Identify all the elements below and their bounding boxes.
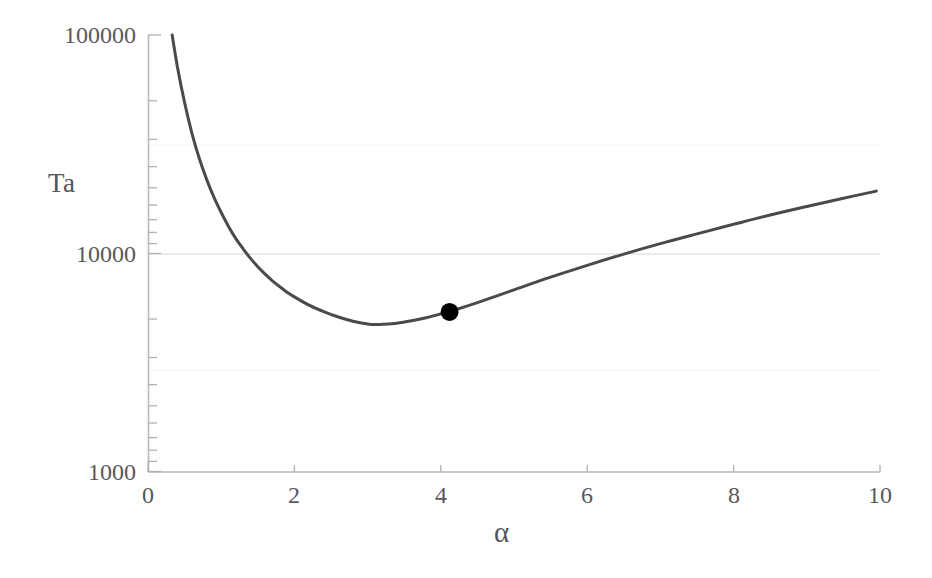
chart-figure: 100000 10000 1000 0 2 4 6 8 10 Ta α	[0, 0, 932, 578]
xtick-label-4: 4	[411, 482, 471, 509]
y-axis-ticks	[148, 35, 161, 472]
series-experimental-point	[441, 303, 459, 321]
x-axis-ticks	[148, 462, 880, 472]
series-critical-taylor-curve	[172, 35, 876, 325]
gridlines	[148, 145, 880, 370]
xtick-label-0: 0	[118, 482, 178, 509]
xtick-label-10: 10	[850, 482, 910, 509]
xtick-label-2: 2	[264, 482, 324, 509]
y-axis-title: Ta	[48, 168, 76, 199]
xtick-label-6: 6	[557, 482, 617, 509]
data-point-marker	[441, 303, 459, 321]
xtick-label-8: 8	[704, 482, 764, 509]
ytick-label-100000: 100000	[26, 22, 136, 49]
x-axis-title: α	[494, 516, 509, 549]
ytick-label-10000: 10000	[26, 241, 136, 268]
